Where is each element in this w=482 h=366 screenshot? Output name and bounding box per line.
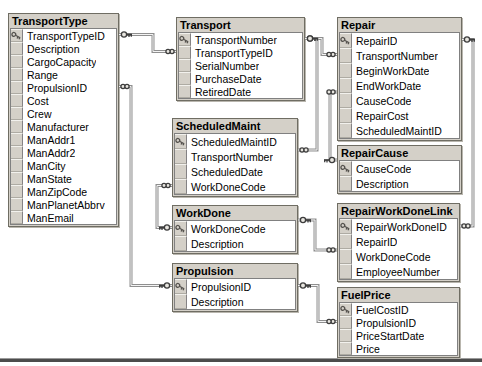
field-row[interactable]: Cost — [11, 94, 116, 107]
row-selector[interactable] — [340, 123, 352, 138]
row-selector[interactable] — [179, 33, 191, 46]
row-selector[interactable] — [340, 108, 352, 123]
row-selector[interactable] — [11, 198, 23, 211]
table-title[interactable]: RepairCause — [338, 146, 461, 160]
field-row[interactable]: CauseCode — [340, 161, 459, 176]
row-selector[interactable] — [340, 161, 352, 176]
table-TransportType[interactable]: TransportTypeTransportTypeIDDescriptionC… — [8, 13, 119, 227]
row-selector[interactable] — [175, 279, 187, 294]
row-selector[interactable] — [340, 234, 352, 249]
field-row[interactable]: PropulsionID — [11, 81, 116, 94]
table-title[interactable]: WorkDone — [173, 206, 297, 220]
relationship-line-RepairCause-Repair[interactable] — [324, 90, 337, 163]
row-selector[interactable] — [11, 55, 23, 68]
relationship-line-WorkDone-RepairWorkDoneLink[interactable] — [298, 217, 337, 252]
row-selector[interactable] — [11, 185, 23, 198]
field-row[interactable]: PriceStartDate — [340, 329, 457, 342]
field-row[interactable]: Manufacturer — [11, 120, 116, 133]
table-RepairCause[interactable]: RepairCauseCauseCodeDescription — [337, 145, 462, 194]
field-row[interactable]: Description — [340, 176, 459, 191]
row-selector[interactable] — [340, 329, 352, 342]
row-selector[interactable] — [175, 164, 187, 179]
row-selector[interactable] — [11, 211, 23, 224]
row-selector[interactable] — [175, 294, 187, 309]
table-title[interactable]: TransportType — [9, 14, 118, 28]
row-selector[interactable] — [340, 78, 352, 93]
row-selector[interactable] — [11, 172, 23, 185]
field-row[interactable]: WorkDoneCode — [175, 179, 295, 194]
field-row[interactable]: PropulsionID — [340, 316, 457, 329]
relationship-line-WorkDone-ScheduledMaint[interactable] — [157, 183, 172, 230]
row-selector[interactable] — [175, 221, 187, 236]
row-selector[interactable] — [11, 120, 23, 133]
field-row[interactable]: PropulsionID — [175, 279, 295, 294]
row-selector[interactable] — [11, 81, 23, 94]
row-selector[interactable] — [175, 236, 187, 251]
field-row[interactable]: EndWorkDate — [340, 78, 459, 93]
table-title[interactable]: Propulsion — [173, 264, 297, 278]
relationship-line-Propulsion-FuelPrice[interactable] — [298, 283, 337, 324]
row-selector[interactable] — [175, 149, 187, 164]
field-row[interactable]: EmployeeNumber — [340, 264, 457, 279]
field-row[interactable]: ManState — [11, 172, 116, 185]
field-row[interactable]: CauseCode — [340, 93, 459, 108]
field-row[interactable]: TransportNumber — [340, 48, 459, 63]
row-selector[interactable] — [179, 85, 191, 98]
field-row[interactable]: RetiredDate — [179, 85, 302, 98]
row-selector[interactable] — [179, 59, 191, 72]
field-row[interactable]: TransportTypeID — [179, 46, 302, 59]
field-row[interactable]: Price — [340, 342, 457, 355]
table-WorkDone[interactable]: WorkDoneWorkDoneCodeDescription — [172, 205, 298, 254]
row-selector[interactable] — [175, 134, 187, 149]
field-row[interactable]: WorkDoneCode — [340, 249, 457, 264]
field-row[interactable]: Description — [175, 294, 295, 309]
field-row[interactable]: BeginWorkDate — [340, 63, 459, 78]
table-FuelPrice[interactable]: FuelPriceFuelCostIDPropulsionIDPriceStar… — [337, 287, 460, 358]
table-title[interactable]: Repair — [338, 18, 461, 32]
row-selector[interactable] — [179, 72, 191, 85]
row-selector[interactable] — [340, 93, 352, 108]
row-selector[interactable] — [340, 303, 352, 316]
table-Repair[interactable]: RepairRepairIDTransportNumberBeginWorkDa… — [337, 17, 462, 141]
field-row[interactable]: Crew — [11, 107, 116, 120]
field-row[interactable]: SerialNumber — [179, 59, 302, 72]
field-row[interactable]: Range — [11, 68, 116, 81]
field-row[interactable]: ManEmail — [11, 211, 116, 224]
row-selector[interactable] — [11, 107, 23, 120]
field-row[interactable]: ManCity — [11, 159, 116, 172]
field-row[interactable]: RepairWorkDoneID — [340, 219, 457, 234]
table-title[interactable]: ScheduledMaint — [173, 119, 297, 133]
table-title[interactable]: RepairWorkDoneLink — [338, 204, 459, 218]
row-selector[interactable] — [340, 63, 352, 78]
field-row[interactable]: ScheduledMaintID — [175, 134, 295, 149]
row-selector[interactable] — [340, 316, 352, 329]
row-selector[interactable] — [11, 133, 23, 146]
row-selector[interactable] — [179, 46, 191, 59]
table-title[interactable]: Transport — [177, 18, 304, 32]
row-selector[interactable] — [11, 68, 23, 81]
field-row[interactable]: ManAddr1 — [11, 133, 116, 146]
field-row[interactable]: TransportTypeID — [11, 29, 116, 42]
row-selector[interactable] — [11, 146, 23, 159]
row-selector[interactable] — [11, 42, 23, 55]
field-row[interactable]: ManZipCode — [11, 185, 116, 198]
field-row[interactable]: FuelCostID — [340, 303, 457, 316]
row-selector[interactable] — [340, 342, 352, 355]
field-row[interactable]: RepairID — [340, 234, 457, 249]
field-row[interactable]: ManPlanetAbbrv — [11, 198, 116, 211]
field-row[interactable]: RepairID — [340, 33, 459, 48]
row-selector[interactable] — [11, 29, 23, 42]
field-row[interactable]: ScheduledDate — [175, 164, 295, 179]
field-row[interactable]: TransportNumber — [175, 149, 295, 164]
field-row[interactable]: RepairCost — [340, 108, 459, 123]
relationship-line-Repair-RepairWorkDoneLink[interactable] — [460, 37, 475, 228]
table-RepairWorkDoneLink[interactable]: RepairWorkDoneLinkRepairWorkDoneIDRepair… — [337, 203, 460, 282]
row-selector[interactable] — [11, 159, 23, 172]
field-row[interactable]: WorkDoneCode — [175, 221, 295, 236]
row-selector[interactable] — [340, 33, 352, 48]
table-title[interactable]: FuelPrice — [338, 288, 459, 302]
field-row[interactable]: ScheduledMaintID — [340, 123, 459, 138]
row-selector[interactable] — [340, 176, 352, 191]
relationship-line-TransportType-Transport[interactable] — [119, 32, 176, 54]
row-selector[interactable] — [175, 179, 187, 194]
